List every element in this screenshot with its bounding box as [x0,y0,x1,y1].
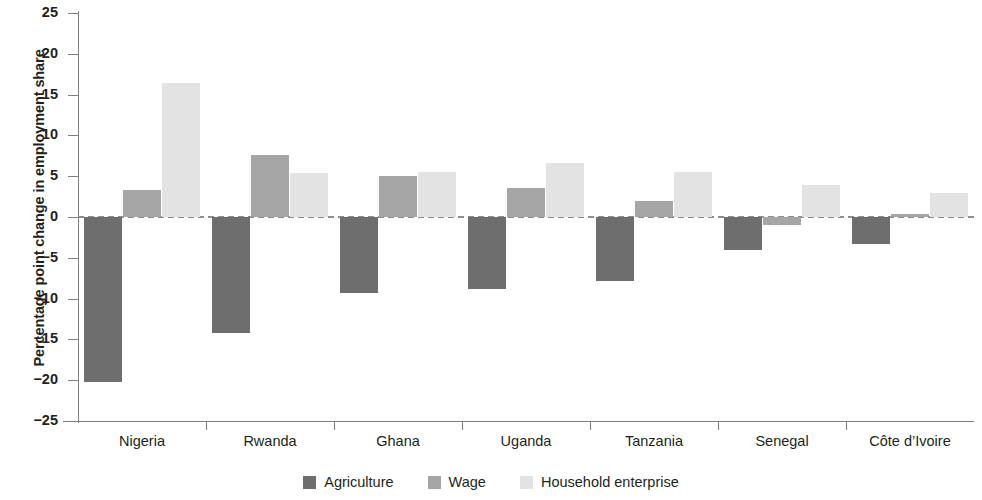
bar-chart: Percentage point change in employment sh… [0,0,982,500]
legend-item-household[interactable]: Household enterprise [520,474,679,490]
x-axis-category-label: Uganda [462,433,590,449]
y-axis-tick [68,135,78,136]
x-axis-category-separator [206,421,207,430]
y-axis-tick [68,258,78,259]
y-axis-tick [68,54,78,55]
bar-group [718,13,846,421]
y-axis-tick-label: 25 [6,5,58,20]
x-axis-category-label: Côte d’Ivoire [846,433,974,449]
y-axis-tick [68,421,78,422]
legend-swatch-icon [303,476,316,489]
y-axis-tick-label: −10 [6,291,58,306]
x-axis-category-label: Tanzania [590,433,718,449]
y-axis-tick-label: −25 [6,413,58,428]
y-axis-tick-label: 5 [6,168,58,183]
x-axis-category-separator [846,421,847,430]
y-axis-tick-label: 20 [6,46,58,61]
y-axis-tick-label: −5 [6,250,58,265]
bar-agriculture-tanzania[interactable] [596,217,634,281]
y-axis-tick-label: −20 [6,372,58,387]
bar-household-enterprise-rwanda[interactable] [290,173,328,217]
x-axis-category-separator [718,421,719,430]
legend-item-label: Agriculture [324,474,393,490]
y-axis-tick [68,176,78,177]
bar-household-enterprise-uganda[interactable] [546,163,584,217]
y-axis-tick [68,95,78,96]
bar-group [590,13,718,421]
bar-wage-ghana[interactable] [379,176,417,217]
legend-swatch-icon [428,476,441,489]
y-axis-tick [68,217,78,218]
bar-group [846,13,974,421]
x-axis-category-label: Senegal [718,433,846,449]
bar-agriculture-uganda[interactable] [468,217,506,289]
bar-wage-uganda[interactable] [507,188,545,217]
bar-group [206,13,334,421]
y-axis-tick-label: −15 [6,331,58,346]
bar-group [334,13,462,421]
bar-agriculture-ghana[interactable] [340,217,378,293]
x-axis-category-label: Rwanda [206,433,334,449]
bar-agriculture-senegal[interactable] [724,217,762,250]
y-axis-tick [68,380,78,381]
bar-agriculture-nigeria[interactable] [84,217,122,382]
bar-wage-tanzania[interactable] [635,201,673,217]
x-axis-category-separator [462,421,463,430]
y-axis-tick [68,339,78,340]
x-axis-category-label: Ghana [334,433,462,449]
bar-group [462,13,590,421]
legend-item-agriculture[interactable]: Agriculture [303,474,393,490]
y-axis-tick-label: 10 [6,127,58,142]
y-axis-tick [68,299,78,300]
bar-group [78,13,206,421]
bar-household-enterprise-nigeria[interactable] [162,83,200,217]
legend-item-label: Household enterprise [541,474,679,490]
bar-household-enterprise-c-te-d-ivoire[interactable] [930,193,968,217]
bar-household-enterprise-senegal[interactable] [802,185,840,217]
legend-item-label: Wage [449,474,486,490]
x-axis-category-separator [334,421,335,430]
bar-wage-c-te-d-ivoire[interactable] [891,214,929,217]
bar-household-enterprise-ghana[interactable] [418,172,456,217]
bar-agriculture-c-te-d-ivoire[interactable] [852,217,890,244]
bar-wage-rwanda[interactable] [251,155,289,217]
chart-legend: AgricultureWageHousehold enterprise [0,474,982,490]
bar-wage-nigeria[interactable] [123,190,161,217]
x-axis-line [63,421,974,422]
y-axis-tick-label: 0 [6,209,58,224]
x-axis-category-label: Nigeria [78,433,206,449]
bar-wage-senegal[interactable] [763,217,801,225]
bar-agriculture-rwanda[interactable] [212,217,250,333]
y-axis-tick-label: 15 [6,87,58,102]
legend-item-wage[interactable]: Wage [428,474,486,490]
x-axis-category-separator [590,421,591,430]
y-axis-tick [68,13,78,14]
bar-household-enterprise-tanzania[interactable] [674,172,712,217]
legend-swatch-icon [520,476,533,489]
